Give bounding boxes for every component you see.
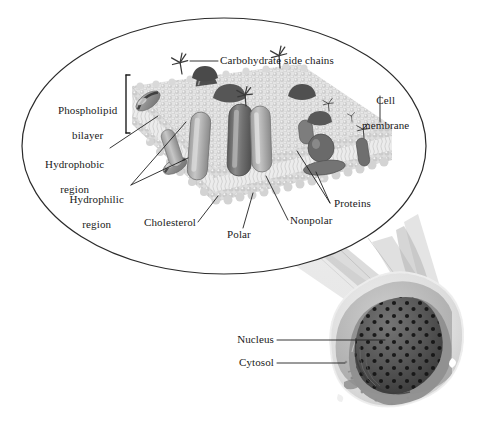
label-cytosol: Cytosol bbox=[212, 356, 274, 368]
label-nonpolar: Nonpolar bbox=[290, 214, 332, 226]
label-phospholipid-line2: bilayer bbox=[72, 129, 103, 141]
label-proteins: Proteins bbox=[334, 197, 371, 209]
label-cholesterol: Cholesterol bbox=[128, 216, 196, 228]
label-hydrophilic-line2: region bbox=[82, 218, 111, 230]
label-cell-membrane-line2: membrane bbox=[362, 119, 409, 131]
label-hydrophilic-line1: Hydrophilic bbox=[70, 193, 124, 205]
label-phospholipid-bilayer: Phospholipid bilayer bbox=[42, 92, 122, 154]
label-polar: Polar bbox=[217, 228, 261, 240]
figure-canvas: Carbohydrate side chains Cell membrane P… bbox=[0, 0, 488, 443]
label-carbohydrate-side-chains: Carbohydrate side chains bbox=[220, 54, 334, 66]
label-nucleus: Nucleus bbox=[212, 333, 274, 345]
animal-cell bbox=[330, 272, 463, 406]
label-phospholipid-line1: Phospholipid bbox=[58, 104, 117, 116]
label-hydrophobic-line1: Hydrophobic bbox=[45, 158, 104, 170]
label-cell-membrane-line1: Cell bbox=[376, 94, 395, 106]
label-cell-membrane: Cell membrane bbox=[340, 82, 420, 144]
label-hydrophilic-region: Hydrophilic region bbox=[50, 181, 132, 243]
